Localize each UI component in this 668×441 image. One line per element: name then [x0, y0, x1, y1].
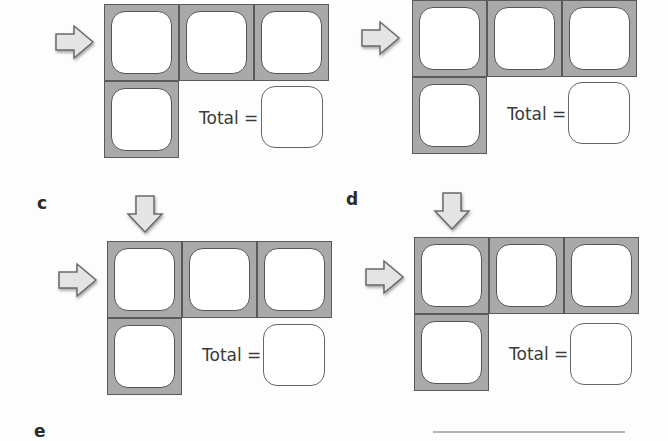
- grid-cell: [104, 4, 179, 81]
- total-answer-box[interactable]: [568, 82, 630, 144]
- answer-slot[interactable]: [111, 88, 172, 151]
- answer-slot[interactable]: [111, 11, 172, 74]
- grid-cell: [257, 241, 332, 318]
- problem-label: e: [34, 421, 46, 441]
- right-arrow-icon: [57, 262, 99, 298]
- grid-cell: [414, 237, 489, 314]
- grid-cell: [564, 237, 639, 314]
- right-arrow-icon: [364, 259, 406, 295]
- grid-cell: [412, 0, 487, 77]
- grid-cell: [179, 4, 254, 81]
- grid-cell: [254, 4, 329, 81]
- answer-slot[interactable]: [494, 7, 555, 70]
- down-arrow-icon: [126, 194, 164, 234]
- total-label: Total =: [509, 344, 568, 364]
- total-answer-box[interactable]: [570, 323, 632, 385]
- grid-cell: [412, 77, 487, 154]
- problem-label: d: [346, 189, 358, 209]
- right-arrow-icon: [360, 20, 402, 56]
- total-answer-box[interactable]: [261, 86, 323, 148]
- right-arrow-icon: [54, 24, 96, 60]
- grid-cell: [489, 237, 564, 314]
- grid-cell: [107, 241, 182, 318]
- answer-slot[interactable]: [419, 84, 480, 147]
- answer-slot[interactable]: [114, 248, 175, 311]
- grid-cell: [182, 241, 257, 318]
- answer-slot[interactable]: [189, 248, 250, 311]
- answer-slot[interactable]: [496, 244, 557, 307]
- down-arrow-icon: [433, 191, 471, 231]
- divider-line: [433, 431, 625, 433]
- grid-cell: [107, 318, 182, 395]
- total-answer-box[interactable]: [263, 324, 325, 386]
- answer-slot[interactable]: [421, 321, 482, 384]
- answer-slot[interactable]: [421, 244, 482, 307]
- answer-slot[interactable]: [419, 7, 480, 70]
- grid-cell: [104, 81, 179, 158]
- total-label: Total =: [507, 104, 566, 124]
- answer-slot[interactable]: [114, 325, 175, 388]
- grid-cell: [487, 0, 562, 77]
- total-label: Total =: [199, 108, 258, 128]
- problem-label: c: [37, 193, 47, 213]
- answer-slot[interactable]: [569, 7, 630, 70]
- answer-slot[interactable]: [261, 11, 322, 74]
- answer-slot[interactable]: [571, 244, 632, 307]
- answer-slot[interactable]: [186, 11, 247, 74]
- total-label: Total =: [202, 345, 261, 365]
- answer-slot[interactable]: [264, 248, 325, 311]
- grid-cell: [414, 314, 489, 391]
- grid-cell: [562, 0, 637, 77]
